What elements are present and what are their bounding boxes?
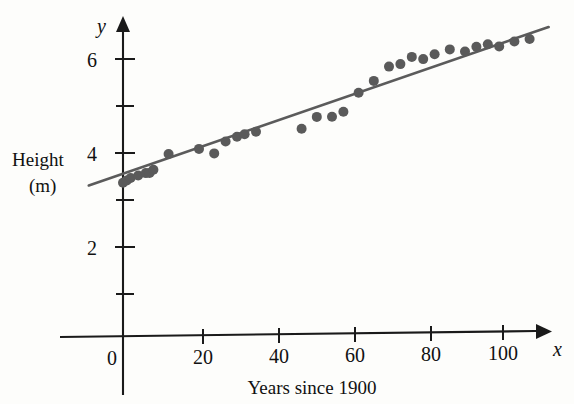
x-tick-label-60: 60 [345,344,365,366]
x-tick-label-20: 20 [193,346,213,368]
data-point [354,88,364,98]
x-axis-title: Years since 1900 [248,377,377,398]
data-point [384,62,394,72]
data-point [509,37,519,47]
data-point [327,112,337,122]
data-point [483,39,493,49]
data-point [297,124,307,134]
data-point [164,149,174,159]
data-point [407,52,417,62]
data-point [148,165,158,175]
scatter-plot: y x 6 4 2 0 20 40 60 80 100 Height (m) Y… [0,0,574,404]
data-point [338,107,348,117]
data-points-group [118,34,535,188]
x-tick-label-40: 40 [269,345,289,367]
y-axis-letter-label: y [95,15,106,38]
data-point [369,76,379,86]
x-axis-line [60,331,536,337]
data-point [312,112,322,122]
trend-line [89,27,549,186]
chart-page: y x 6 4 2 0 20 40 60 80 100 Height (m) Y… [0,0,574,404]
data-point [418,54,428,64]
data-point [460,47,470,57]
data-point [240,129,250,139]
x-axis-arrowhead [536,324,552,339]
data-point [430,49,440,59]
y-tick-label-2: 2 [87,237,97,259]
y-axis-title-line1: Height [12,149,64,170]
data-point [445,44,455,54]
y-tick-label-6: 6 [87,49,97,71]
x-axis-letter-label: x [552,338,562,360]
y-tick-label-4: 4 [87,143,97,165]
data-point [471,42,481,52]
data-point [194,144,204,154]
data-point [525,34,535,44]
y-axis-title-line2: (m) [29,175,56,197]
x-tick-label-100: 100 [488,342,518,364]
data-point [209,148,219,158]
data-point [221,137,231,147]
y-axis-arrowhead [116,16,130,32]
data-point [395,59,405,69]
axes-group [60,16,552,395]
data-point [494,41,504,51]
x-tick-label-0: 0 [107,347,117,369]
data-point [251,127,261,137]
x-tick-label-80: 80 [421,343,441,365]
